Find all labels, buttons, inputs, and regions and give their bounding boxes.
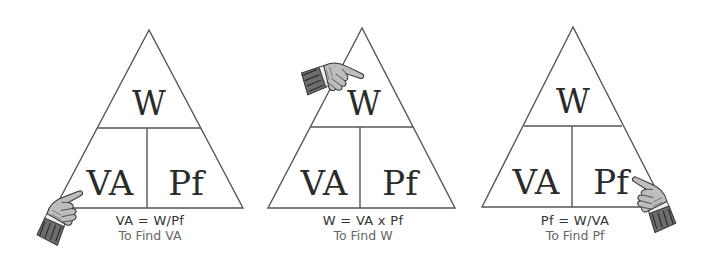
label-w: W xyxy=(132,84,166,123)
caption-text: To Find Pf xyxy=(510,230,640,243)
caption-text: To Find W xyxy=(298,230,428,243)
label-pf: Pf xyxy=(168,163,206,203)
label-w: W xyxy=(556,82,590,121)
triangle-find-pf: W VA Pf xyxy=(482,27,687,239)
label-pf: Pf xyxy=(382,163,420,203)
caption-find-w: W = VA x Pf To Find W xyxy=(298,214,428,243)
triangle-find-w: W VA Pf xyxy=(268,28,455,208)
label-va: VA xyxy=(300,163,348,203)
formula-text: Pf = W/VA xyxy=(510,214,640,227)
caption-text: To Find VA xyxy=(85,230,215,243)
label-pf: Pf xyxy=(593,162,631,202)
formula-text: VA = W/Pf xyxy=(85,214,215,227)
label-va: VA xyxy=(512,162,560,202)
caption-find-pf: Pf = W/VA To Find Pf xyxy=(510,214,640,243)
label-va: VA xyxy=(86,163,134,203)
label-w: W xyxy=(347,84,381,123)
caption-find-va: VA = W/Pf To Find VA xyxy=(85,214,215,243)
formula-text: W = VA x Pf xyxy=(298,214,428,227)
power-triangle-diagram: W VA Pf W VA Pf W VA Pf VA = W/Pf To xyxy=(0,0,724,263)
